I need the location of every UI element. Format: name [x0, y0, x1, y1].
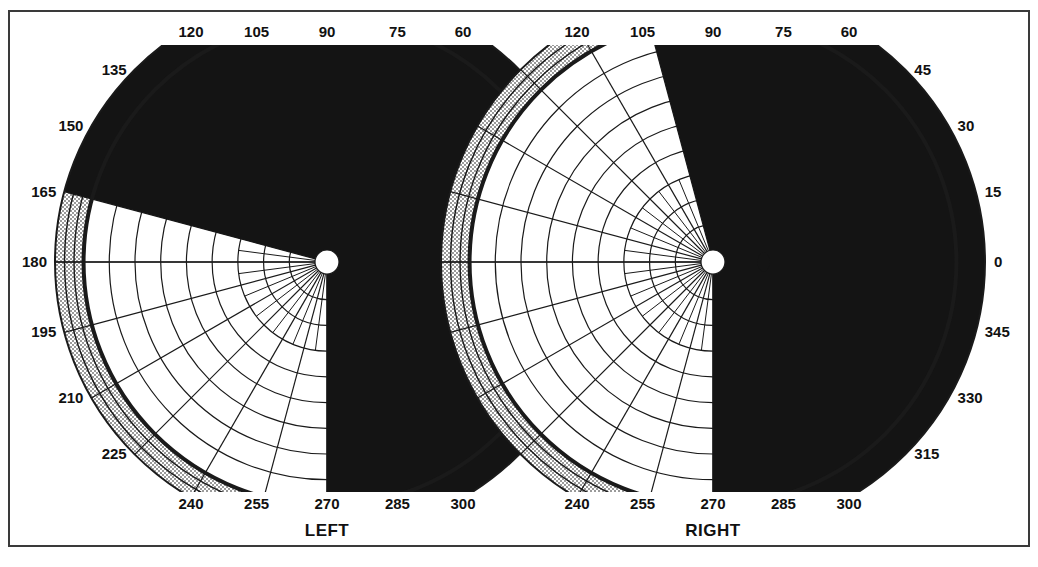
axis-tick-255: 255: [630, 495, 655, 512]
axis-tick-75: 75: [775, 23, 792, 40]
axis-tick-255: 255: [244, 495, 269, 512]
panel-body: [441, 0, 985, 534]
axis-tick-60: 60: [841, 23, 858, 40]
axis-tick-270: 270: [700, 495, 725, 512]
axis-tick-180: 180: [22, 253, 47, 270]
axis-tick-345: 345: [985, 323, 1010, 340]
axis-tick-210: 210: [58, 389, 83, 406]
axis-tick-90: 90: [319, 23, 336, 40]
axis-tick-45: 45: [914, 61, 931, 78]
perimetry-chart: 1201059075602402552702853001351501651801…: [0, 0, 1038, 567]
eye-label-right-eye: RIGHT: [685, 521, 741, 540]
axis-tick-270: 270: [314, 495, 339, 512]
axis-tick-105: 105: [244, 23, 269, 40]
axis-tick-330: 330: [958, 389, 983, 406]
axis-tick-120: 120: [564, 23, 589, 40]
axis-tick-315: 315: [914, 445, 939, 462]
axis-tick-225: 225: [102, 445, 127, 462]
blind-spot: [758, 252, 770, 272]
axis-tick-240: 240: [564, 495, 589, 512]
axis-tick-240: 240: [178, 495, 203, 512]
axis-tick-60: 60: [455, 23, 472, 40]
fixation-point: [315, 250, 339, 274]
eye-label-left-eye: LEFT: [305, 521, 350, 540]
axis-tick-195: 195: [31, 323, 56, 340]
axis-tick-135: 135: [102, 61, 127, 78]
axis-tick-75: 75: [389, 23, 406, 40]
axis-tick-285: 285: [771, 495, 796, 512]
axis-tick-90: 90: [705, 23, 722, 40]
axis-tick-105: 105: [630, 23, 655, 40]
axis-tick-165: 165: [31, 183, 56, 200]
fixation-point: [701, 250, 725, 274]
axis-tick-30: 30: [958, 117, 975, 134]
axis-tick-150: 150: [58, 117, 83, 134]
axis-tick-285: 285: [385, 495, 410, 512]
perimetry-svg: 1201059075602402552702853001351501651801…: [0, 0, 1038, 567]
axis-tick-0: 0: [994, 253, 1002, 270]
panel-right-eye: [441, 0, 985, 534]
axis-tick-15: 15: [985, 183, 1002, 200]
axis-tick-300: 300: [450, 495, 475, 512]
axis-tick-300: 300: [836, 495, 861, 512]
axis-tick-120: 120: [178, 23, 203, 40]
